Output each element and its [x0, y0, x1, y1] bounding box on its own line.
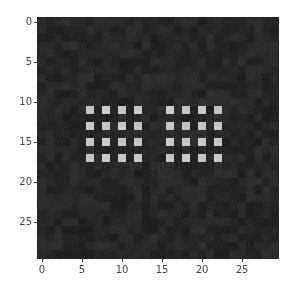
x-tick	[122, 258, 123, 262]
y-tick	[34, 142, 38, 143]
x-tick-label: 15	[152, 265, 172, 275]
x-tick-label: 20	[192, 265, 212, 275]
y-tick-label: 5	[6, 57, 32, 67]
figure: 05101520250510152025	[0, 0, 294, 296]
y-tick-label: 0	[6, 17, 32, 27]
y-tick	[34, 182, 38, 183]
y-tick	[34, 62, 38, 63]
image-axes	[38, 18, 278, 258]
y-tick-label: 10	[6, 97, 32, 107]
x-tick	[162, 258, 163, 262]
y-tick	[34, 22, 38, 23]
heatmap-image	[38, 18, 278, 258]
y-tick	[34, 102, 38, 103]
y-tick-label: 15	[6, 137, 32, 147]
x-tick-label: 5	[72, 265, 92, 275]
x-tick-label: 10	[112, 265, 132, 275]
x-tick-label: 0	[32, 265, 52, 275]
x-tick	[242, 258, 243, 262]
y-tick	[34, 222, 38, 223]
y-tick-label: 25	[6, 217, 32, 227]
y-tick-label: 20	[6, 177, 32, 187]
x-tick	[42, 258, 43, 262]
x-tick	[202, 258, 203, 262]
x-tick-label: 25	[232, 265, 252, 275]
x-tick	[82, 258, 83, 262]
